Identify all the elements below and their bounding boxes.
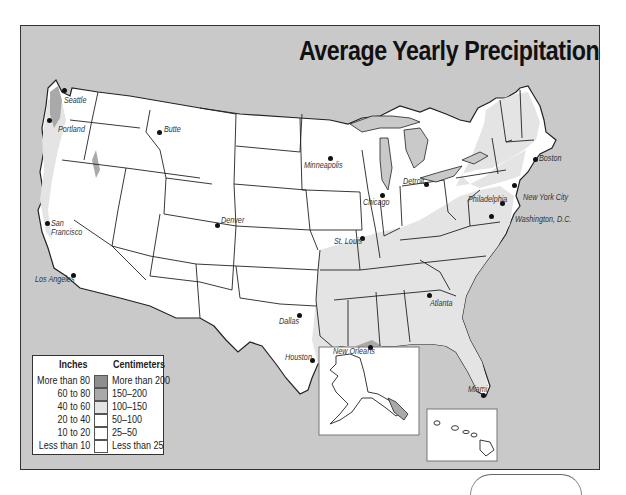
city-label: Boston [539,154,561,163]
map-title: Average Yearly Precipitation [299,36,599,67]
legend-inches-header: Inches [59,359,88,370]
city-label: Butte [164,125,181,134]
legend-inches: 40 to 60 [57,401,90,412]
city-label: Seattle [64,96,86,105]
legend-row: 20 to 40 50–100 [33,414,163,427]
city-dot [62,88,67,93]
legend-cm: 25–50 [112,427,137,438]
legend: Inches Centimeters More than 80 More tha… [32,355,164,455]
city-label: Minneapolis [304,161,343,170]
legend-swatch [94,427,108,440]
city-dot [489,214,494,219]
city-dot [45,221,50,226]
legend-inches: 10 to 20 [57,427,90,438]
legend-cm: 100–150 [112,401,147,412]
city-label: New Orleans [333,347,375,356]
city-label: Miami [468,385,487,394]
legend-cm: 50–100 [112,414,142,425]
legend-swatch [94,375,108,388]
legend-row: 10 to 20 25–50 [33,427,163,440]
city-dot [47,118,52,123]
legend-swatch [94,388,108,401]
city-label: Houston [285,353,312,362]
city-dot [215,223,220,228]
legend-inches: More than 80 [37,375,90,386]
city-label: New York City [523,193,568,202]
legend-cm: 150–200 [112,388,147,399]
legend-row: Less than 10 Less than 25 [33,440,163,453]
city-label: Detroit [403,177,424,186]
legend-swatch [94,414,108,427]
city-label: Denver [221,216,244,225]
city-label: Los Angeles [35,275,74,284]
city-label: Washington, D.C. [515,215,571,224]
city-label: St. Louis [334,237,362,246]
city-label: Dallas [279,317,299,326]
city-dot [512,183,517,188]
city-dot [424,182,429,187]
legend-row: 60 to 80 150–200 [33,388,163,401]
legend-cm-header: Centimeters [113,359,165,370]
legend-inches: 60 to 80 [57,388,90,399]
city-dot [157,130,162,135]
city-label: Philadelphia [468,195,507,204]
pencil-scribble [470,474,582,495]
city-label: Chicago [363,198,390,207]
legend-inches: 20 to 40 [57,414,90,425]
legend-swatch [94,401,108,414]
city-label: Atlanta [430,299,452,308]
city-label: Portland [58,125,85,134]
legend-swatch [94,440,108,453]
legend-row: More than 80 More than 200 [33,375,163,388]
legend-cm: Less than 25 [112,440,164,451]
city-label: San Francisco [51,219,85,236]
legend-inches: Less than 10 [38,440,90,451]
legend-cm: More than 200 [112,375,170,386]
city-dot [533,157,538,162]
legend-row: 40 to 60 100–150 [33,401,163,414]
